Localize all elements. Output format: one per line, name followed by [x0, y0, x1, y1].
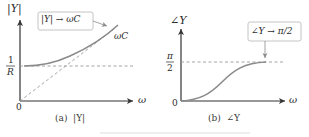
asymptote-label-a: ωC	[114, 31, 128, 41]
level-label-num-b: π	[167, 51, 173, 61]
callout-arrow-a	[93, 21, 107, 26]
caption-b: (b) ∠Y	[208, 113, 240, 123]
caption-a: (a) |Y|	[55, 113, 85, 123]
panel-a-magnitude	[20, 12, 133, 101]
phase-curve	[181, 62, 266, 101]
origin-label-b: 0	[172, 98, 178, 108]
callout-text-a: |Y| → ωC	[41, 14, 81, 24]
level-label-den-a: R	[7, 67, 14, 77]
x-axis-label-b: ω	[289, 94, 297, 105]
level-label-den-b: 2	[167, 63, 173, 73]
y-axis-label-a: |Y|	[7, 2, 22, 15]
magnitude-curve	[24, 25, 118, 66]
y-axis-label-b: ∠Y	[170, 14, 186, 27]
level-label-num-a: 1	[8, 55, 14, 65]
x-axis-label-a: ω	[138, 94, 146, 105]
origin-label-a: 0	[16, 102, 22, 112]
cropped-figure-caption	[100, 132, 250, 134]
callout-text-b: ∠Y → π/2	[251, 26, 292, 36]
